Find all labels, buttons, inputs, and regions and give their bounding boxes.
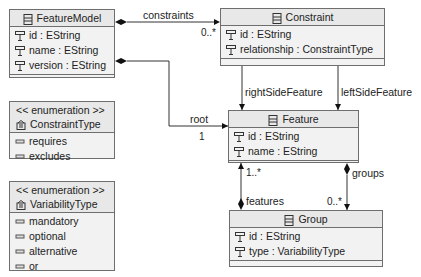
class-name: Constraint [286,11,334,23]
literal-icon [15,154,25,160]
attribute-icon [15,31,25,41]
class-header: Constraint [221,9,384,26]
attribute-icon [226,30,236,40]
attribute-icon [235,247,245,257]
class-name: Feature [282,113,318,125]
enum-header: << enumeration >> VariabilityType [10,182,114,213]
root-label: root [190,113,208,125]
attribute-icon [234,147,244,157]
groups-multiplicity: 0..* [327,196,342,207]
enum-stereotype: << enumeration >> [16,183,114,197]
attribute[interactable]: name : EString [15,43,114,58]
enum-name: ConstraintType [30,118,101,130]
class-icon [268,115,278,126]
class-feature-model[interactable]: FeatureModel id : EString name : EString… [9,9,115,78]
attribute-list: id : EString relationship : ConstraintTy… [221,26,384,58]
literal-list: requires excludes [10,133,114,165]
attribute[interactable]: id : EString [15,28,114,43]
operations-compartment [221,58,384,67]
features-label: features [246,195,284,207]
enum-constraint-type[interactable]: << enumeration >> ConstraintType require… [9,101,115,159]
attribute-list: id : EString name : EString [229,128,358,160]
groups-association [344,163,350,210]
left-side-feature-label: leftSideFeature [341,86,412,98]
right-side-feature-label: rightSideFeature [245,86,323,98]
enumeration-icon [16,200,26,210]
class-group[interactable]: Group id : EString type : VariabilityTyp… [229,210,383,267]
enum-header: << enumeration >> ConstraintType [10,102,114,133]
class-icon [272,13,282,24]
enum-literal[interactable]: mandatory [15,214,114,229]
root-multiplicity: 1 [199,131,205,142]
operations-compartment [230,260,382,269]
enum-stereotype: << enumeration >> [16,103,114,117]
attribute-icon [15,46,25,56]
attribute[interactable]: id : EString [226,27,384,42]
attribute[interactable]: id : EString [234,129,358,144]
attribute-icon [235,232,245,242]
attribute[interactable]: id : EString [235,229,382,244]
literal-icon [15,139,25,145]
attribute-icon [226,45,236,55]
class-icon [23,14,33,25]
attribute[interactable]: relationship : ConstraintType [226,42,384,57]
attribute-list: id : EString type : VariabilityType [230,228,382,260]
operations-compartment [229,160,358,169]
enum-literal[interactable]: excludes [15,149,114,164]
constraints-multiplicity: 0..* [201,27,216,38]
attribute-list: id : EString name : EString version : ES… [10,27,114,74]
class-icon [284,215,294,226]
operations-compartment [10,74,114,83]
literal-list: mandatory optional alternative or [10,213,114,275]
enum-literal[interactable]: requires [15,134,114,149]
enum-literal[interactable]: optional [15,229,114,244]
enum-literal[interactable]: alternative [15,244,114,259]
attribute-icon [234,132,244,142]
root-association [115,58,228,129]
class-header: FeatureModel [10,10,114,27]
literal-icon [15,249,25,255]
enum-literal[interactable]: or [15,259,114,274]
literal-icon [15,234,25,240]
literal-icon [15,264,25,270]
enumeration-icon [16,120,26,130]
class-name: FeatureModel [37,12,102,24]
literal-icon [15,219,25,225]
enum-name: VariabilityType [30,198,98,210]
class-header: Feature [229,111,358,128]
class-name: Group [298,213,327,225]
attribute[interactable]: version : EString [15,58,114,73]
attribute-icon [15,61,25,71]
class-constraint[interactable]: Constraint id : EString relationship : C… [220,8,385,66]
class-feature[interactable]: Feature id : EString name : EString [228,110,359,163]
constraints-label: constraints [143,9,194,21]
features-association [238,163,244,210]
attribute[interactable]: type : VariabilityType [235,244,382,259]
attribute[interactable]: name : EString [234,144,358,159]
class-header: Group [230,211,382,228]
enum-variability-type[interactable]: << enumeration >> VariabilityType mandat… [9,181,115,271]
